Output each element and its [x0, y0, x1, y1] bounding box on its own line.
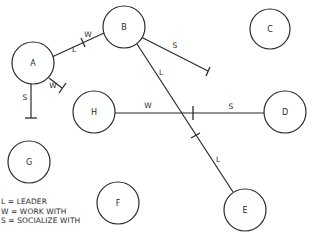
edge-h-d: WS	[115, 101, 264, 120]
legend-item-leader: L = LEADER	[1, 197, 80, 207]
node-c: C	[250, 9, 290, 49]
edge-b-s: S	[141, 37, 210, 76]
node-d: D	[264, 91, 306, 133]
edge-b-e: LL	[137, 44, 233, 192]
edge-label: S	[173, 41, 178, 50]
legend-item-socialize-with: S = SOCIALIZE WITH	[1, 216, 80, 226]
node-a: A	[12, 42, 54, 84]
node-label: C	[267, 25, 273, 34]
legend: L = LEADER W = WORK WITH S = SOCIALIZE W…	[1, 197, 80, 226]
legend-item-work-with: W = WORK WITH	[1, 207, 80, 217]
edge-label: W	[144, 101, 152, 110]
edge-tick-mark	[59, 83, 66, 93]
edge-tick-mark	[206, 67, 210, 76]
edge-label: W	[49, 81, 57, 90]
edge-label: W	[84, 30, 92, 39]
edges-group: WLWSSLLWS	[23, 30, 264, 192]
edge-a-s: S	[23, 84, 37, 118]
node-label: B	[121, 23, 127, 32]
edge-label: L	[159, 68, 164, 77]
edge-a-b: WL	[52, 30, 104, 57]
node-label: D	[282, 108, 288, 117]
edge-label: S	[23, 93, 28, 102]
node-f: F	[97, 182, 139, 224]
node-label: E	[242, 206, 247, 215]
edge-a-w: W	[49, 78, 66, 93]
node-b: B	[103, 6, 145, 48]
edge-line	[52, 33, 104, 57]
node-h: H	[73, 91, 115, 133]
node-e: E	[224, 189, 266, 231]
node-label: H	[91, 108, 97, 117]
node-label: G	[26, 158, 32, 167]
node-label: A	[30, 59, 36, 68]
edge-line	[137, 44, 233, 192]
node-label: F	[116, 199, 121, 208]
edge-label: S	[229, 102, 234, 111]
node-g: G	[8, 141, 50, 183]
edge-label: L	[216, 155, 221, 164]
